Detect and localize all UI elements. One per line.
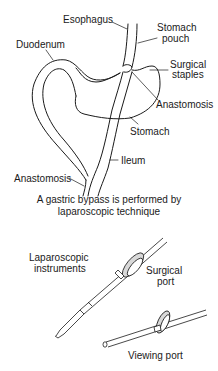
- label-anastomosis-upper: Anastomosis: [156, 99, 213, 110]
- esophagus-drawing: [123, 24, 137, 67]
- label-surgical-port-line2: port: [157, 276, 174, 287]
- label-surgical-staples-line2: staples: [172, 69, 204, 80]
- caption-line2: laparoscopic technique: [0, 206, 218, 218]
- ileum-drawing: [88, 72, 132, 196]
- caption-line1: A gastric bypass is performed by: [0, 194, 218, 206]
- label-laparoscopic-line2: instruments: [34, 263, 86, 274]
- stomach-pouch-drawing: [123, 65, 132, 73]
- label-ileum: Ileum: [121, 155, 145, 166]
- label-anastomosis-lower: Anastomosis: [14, 173, 71, 184]
- label-esophagus: Esophagus: [63, 14, 113, 25]
- duodenum-drawing: [32, 60, 120, 180]
- gastric-bypass-illustration: [0, 0, 218, 371]
- label-stomach-pouch-line1: Stomach: [157, 22, 196, 33]
- label-surgical-port-line1: Surgical: [146, 265, 182, 276]
- label-laparoscopic-line1: Laparoscopic: [29, 252, 88, 263]
- label-viewing-port: Viewing port: [128, 350, 183, 361]
- label-stomach: Stomach: [130, 126, 169, 137]
- label-duodenum: Duodenum: [16, 39, 65, 50]
- viewing-port-drawing: [103, 309, 207, 347]
- label-stomach-pouch-line2: pouch: [162, 33, 189, 44]
